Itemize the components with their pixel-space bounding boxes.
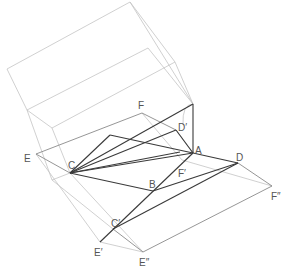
label-B: B bbox=[149, 179, 156, 190]
geometry-figure: E F D′ C A D F′ B F″ C′ E′ E″ bbox=[0, 0, 285, 274]
label-D: D bbox=[236, 152, 243, 163]
label-C-prime: C′ bbox=[111, 218, 120, 229]
label-F-double-prime: F″ bbox=[271, 191, 281, 202]
label-C: C bbox=[68, 160, 75, 171]
label-E-prime: E′ bbox=[94, 247, 103, 258]
prism-construction bbox=[7, 2, 193, 180]
diagram-canvas: E F D′ C A D F′ B F″ C′ E′ E″ bbox=[0, 0, 285, 274]
label-D-prime: D′ bbox=[178, 122, 187, 133]
label-F-prime: F′ bbox=[178, 168, 186, 179]
label-E-double-prime: E″ bbox=[139, 257, 150, 268]
label-F: F bbox=[138, 100, 144, 111]
label-E: E bbox=[24, 153, 31, 164]
label-A: A bbox=[195, 145, 202, 156]
primary-lines bbox=[70, 104, 238, 242]
